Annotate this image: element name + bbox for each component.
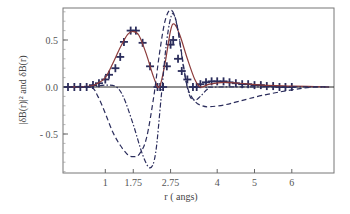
x-tick-label: 6 (289, 177, 294, 188)
y-tick-label: - 0.5 (40, 129, 58, 140)
x-tick-label: 4 (215, 177, 220, 188)
x-tick-label: 1 (103, 177, 108, 188)
x-tick-label: 2.75 (162, 177, 180, 188)
chart-canvas: 11.752.75456 0.50.0- 0.5 r ( angs) |δB(r… (0, 0, 350, 214)
y-axis-title: |δB(r)|² and δB(r) (17, 55, 29, 124)
plot-frame (63, 8, 334, 173)
x-axis-title: r ( angs) (164, 191, 197, 203)
x-tick-label: 1.75 (125, 177, 143, 188)
y-tick-label: 0.0 (46, 82, 59, 93)
x-tick-label: 5 (252, 177, 257, 188)
y-tick-label: 0.5 (46, 35, 59, 46)
